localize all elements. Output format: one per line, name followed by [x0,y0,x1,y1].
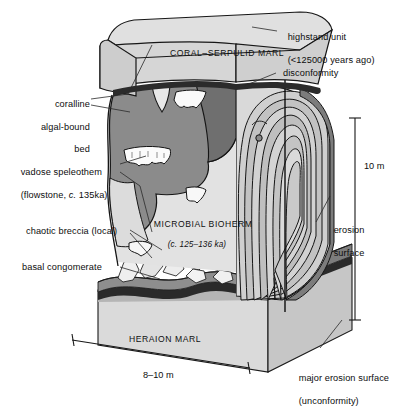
speleothem-line2b: 135ka) [76,190,107,200]
annotation-chaotic-breccia: chaotic breccia (local) [26,226,117,237]
erosion-line1: erosion [334,225,365,235]
label-microbial-bioherm: MICROBIAL BIOHERM (c. 125–136 ka) [142,208,252,272]
annotation-vadose-speleothem: vadose speleothem (flowstone, c. 135ka) [10,156,108,212]
annotation-coralline-algal-bound-bed: coralline algal-bound bed [28,88,90,166]
coralline-line1: coralline [55,99,90,109]
speleothem-line2a: (flowstone, [21,190,69,200]
annotation-major-erosion-surface: major erosion surface (unconformity) [288,362,389,410]
annotation-basal-conglomerate: basal congomerate [22,262,102,273]
annotation-disconformity: disconformity [283,68,338,79]
highstand-line2: (<125000 years ago) [288,55,375,65]
coralline-line3: bed [74,144,90,154]
speleothem-line1: vadose speleothem [21,167,102,177]
erosion-line2: surface [334,248,365,258]
label-coral-serpulid-marl: CORAL–SERPULID MARL [166,48,288,59]
annotation-erosion-surface: erosion surface [323,214,364,270]
label-heraion-marl: HERAION MARL [110,334,220,345]
scale-label-vertical: 10 m [364,161,384,171]
scale-label-horizontal: 8–10 m [143,370,174,380]
major-erosion-line2: (unconformity) [299,396,359,406]
microbial-bioherm-age: (c. 125–136 ka) [142,240,252,251]
highstand-line1: highstand unit [288,32,347,42]
coralline-line2: algal-bound [41,122,90,132]
major-erosion-line1: major erosion surface [299,373,389,383]
microbial-bioherm-name: MICROBIAL BIOHERM [154,219,253,229]
